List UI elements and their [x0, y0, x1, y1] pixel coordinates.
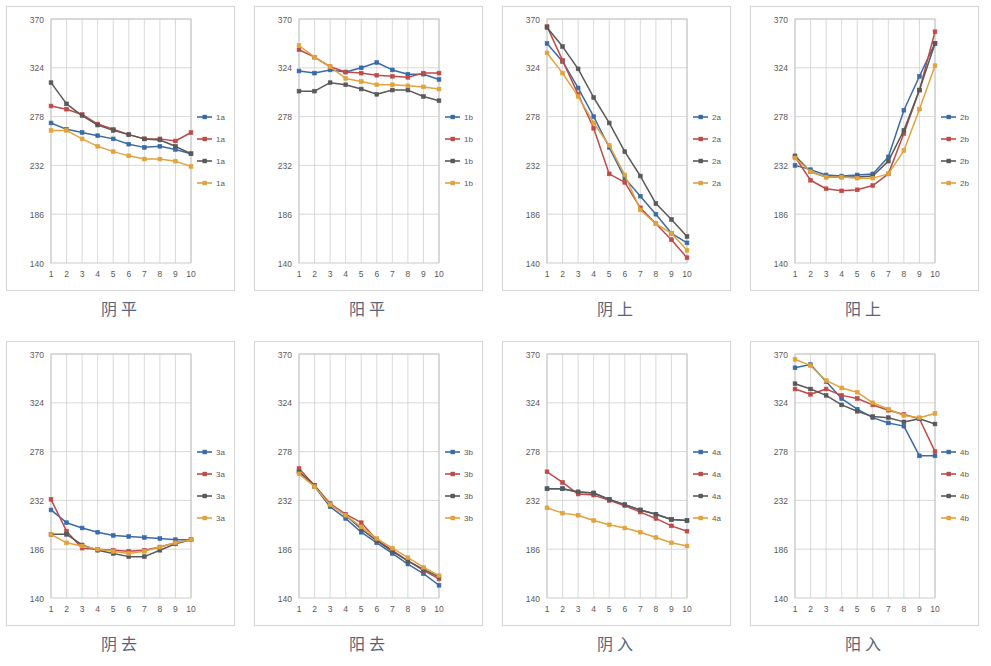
x-axis-tick-label: 8 — [406, 604, 411, 614]
legend-label: 3b — [464, 492, 473, 501]
legend-marker — [699, 450, 703, 454]
series-marker — [390, 88, 394, 92]
chart-panel-yinshang: 140186232278324370123456789102a2a2a2a — [502, 6, 731, 291]
series-marker — [933, 450, 937, 454]
series-marker — [158, 144, 162, 148]
series-marker — [654, 202, 658, 206]
series-marker — [49, 128, 53, 132]
legend-marker — [451, 159, 455, 163]
series-marker — [855, 390, 859, 394]
x-axis-tick-label: 2 — [64, 269, 69, 279]
series-marker — [111, 549, 115, 553]
x-axis-tick-label: 3 — [824, 604, 829, 614]
series-marker — [840, 403, 844, 407]
series-marker — [855, 409, 859, 413]
series-marker — [437, 574, 441, 578]
x-axis-tick-label: 8 — [158, 604, 163, 614]
x-axis-tick-label: 5 — [359, 269, 364, 279]
legend-marker — [203, 159, 207, 163]
series-marker — [685, 241, 689, 245]
series-marker — [359, 71, 363, 75]
y-axis-tick-label: 140 — [30, 259, 44, 269]
y-axis-tick-label: 140 — [526, 259, 540, 269]
legend-label: 1b — [464, 113, 473, 122]
series-marker — [96, 530, 100, 534]
series-marker — [886, 172, 890, 176]
y-axis-tick-label: 140 — [278, 259, 292, 269]
legend-marker — [947, 516, 951, 520]
y-axis-tick-label: 370 — [30, 15, 44, 25]
series-marker — [902, 149, 906, 153]
chart-area-yinru: 140186232278324370123456789104a4a4a4a — [502, 341, 731, 626]
legend-label: 4a — [712, 470, 721, 479]
x-axis-tick-label: 10 — [930, 604, 940, 614]
chart-panel-yangshang: 140186232278324370123456789102b2b2b2b — [750, 6, 979, 291]
series-marker — [189, 152, 193, 156]
x-axis-tick-label: 4 — [95, 604, 100, 614]
y-axis-tick-label: 370 — [278, 15, 292, 25]
series-marker — [638, 174, 642, 178]
series-marker — [592, 126, 596, 130]
series-marker — [592, 96, 596, 100]
series-marker — [49, 532, 53, 536]
series-marker — [545, 470, 549, 474]
series-marker — [390, 68, 394, 72]
series-marker — [127, 133, 131, 137]
chart-canvas-yangqu: 140186232278324370123456789103b3b3b3b — [255, 342, 484, 627]
series-marker — [670, 218, 674, 222]
series-marker — [297, 472, 301, 476]
series-marker — [344, 83, 348, 87]
series-marker — [49, 497, 53, 501]
series-marker — [623, 150, 627, 154]
y-axis-tick-label: 370 — [526, 15, 540, 25]
series-marker — [654, 222, 658, 226]
series-marker — [189, 538, 193, 542]
x-axis-tick-label: 5 — [111, 269, 116, 279]
series-line-yinru-3 — [547, 508, 687, 546]
chart-area-yinshang: 140186232278324370123456789102a2a2a2a — [502, 6, 731, 291]
chart-canvas-yangru: 140186232278324370123456789104b4b4b4b — [751, 342, 980, 627]
chart-area-yinqu: 140186232278324370123456789103a3a3a3a — [6, 341, 235, 626]
series-marker — [422, 85, 426, 89]
legend-label: 2b — [960, 113, 969, 122]
y-axis-tick-label: 278 — [774, 447, 788, 457]
series-marker — [933, 30, 937, 34]
series-marker — [80, 137, 84, 141]
series-marker — [840, 175, 844, 179]
plot-frame — [547, 354, 687, 598]
series-line-yinping-2 — [51, 83, 191, 154]
series-marker — [592, 121, 596, 125]
series-marker — [685, 235, 689, 239]
series-marker — [824, 379, 828, 383]
series-marker — [437, 78, 441, 82]
series-marker — [886, 407, 890, 411]
series-marker — [437, 87, 441, 91]
legend-marker — [947, 494, 951, 498]
x-axis-tick-label: 5 — [359, 604, 364, 614]
series-marker — [80, 526, 84, 530]
series-marker — [158, 537, 162, 541]
x-axis-tick-label: 8 — [654, 604, 659, 614]
series-marker — [576, 95, 580, 99]
series-marker — [545, 487, 549, 491]
x-axis-tick-label: 2 — [808, 604, 813, 614]
legend-marker — [947, 181, 951, 185]
series-marker — [561, 58, 565, 62]
series-marker — [685, 529, 689, 533]
legend-label: 1a — [216, 113, 225, 122]
series-marker — [65, 541, 69, 545]
y-axis-tick-label: 186 — [30, 545, 44, 555]
plot-frame — [299, 19, 439, 263]
series-marker — [561, 487, 565, 491]
series-marker — [111, 150, 115, 154]
series-marker — [592, 491, 596, 495]
series-marker — [933, 412, 937, 416]
x-axis-tick-label: 8 — [158, 269, 163, 279]
series-marker — [623, 180, 627, 184]
legend-label: 3a — [216, 448, 225, 457]
legend-label: 3a — [216, 514, 225, 523]
series-marker — [607, 121, 611, 125]
legend-marker — [451, 181, 455, 185]
series-marker — [359, 80, 363, 84]
series-marker — [793, 164, 797, 168]
